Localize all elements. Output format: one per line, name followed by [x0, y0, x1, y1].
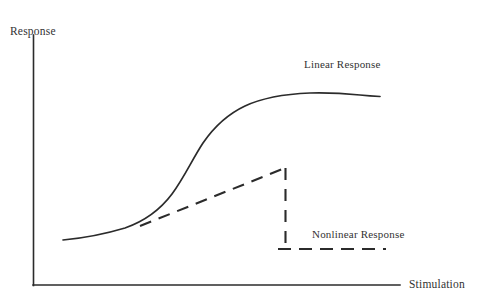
nonlinear-response-rising-segment — [140, 168, 285, 226]
response-stimulation-figure — [0, 0, 480, 297]
x-axis-label: Stimulation — [409, 278, 465, 290]
nonlinear-response-label: Nonlinear Response — [312, 228, 405, 240]
linear-response-label: Linear Response — [304, 58, 381, 70]
linear-response-curve — [63, 93, 380, 240]
y-axis-label: Response — [10, 25, 56, 37]
